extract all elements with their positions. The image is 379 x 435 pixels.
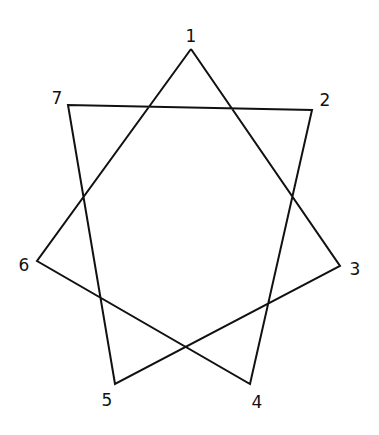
vertex-label-5: 5 <box>102 390 113 410</box>
heptagram-diagram: 1 2 3 4 5 6 7 <box>0 0 379 435</box>
star-outline <box>37 49 340 384</box>
vertex-label-4: 4 <box>252 392 263 412</box>
vertex-label-3: 3 <box>350 259 361 279</box>
vertex-label-2: 2 <box>320 90 331 110</box>
vertex-label-6: 6 <box>19 255 30 275</box>
vertex-label-1: 1 <box>186 26 197 46</box>
vertex-label-7: 7 <box>52 88 63 108</box>
vertex-labels: 1 2 3 4 5 6 7 <box>19 26 361 412</box>
